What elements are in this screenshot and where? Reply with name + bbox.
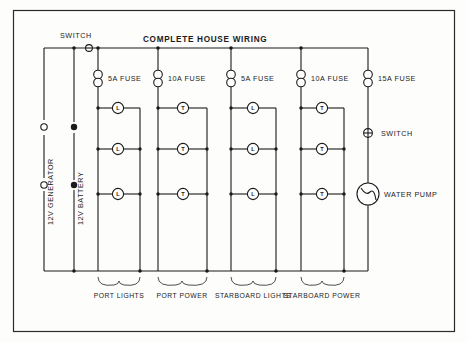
diagram-title: COMPLETE HOUSE WIRING: [143, 35, 267, 44]
circuit-1-name: PORT LIGHTS: [94, 292, 145, 299]
fuse-3-icon-lower[interactable]: [227, 78, 236, 87]
port-light-2-glyph: L: [116, 146, 120, 152]
port-light-3-glyph: L: [116, 191, 120, 197]
circuit-1-rung-3-node-left: [96, 192, 99, 195]
circuit-3-rung-3-node-right: [274, 192, 277, 195]
generator-label: 12V GENERATOR: [46, 158, 55, 225]
fuse-4-icon-lower[interactable]: [297, 78, 306, 87]
port-outlet-3-glyph: T: [181, 191, 185, 197]
brace-circuit-1: [98, 277, 140, 285]
main-switch-label: SWITCH: [60, 31, 92, 40]
circuit-4-rung-1-node: [299, 106, 302, 109]
circuit-3-bottom-junction: [274, 269, 278, 273]
circuit-4-name: STARBOARD POWER: [284, 292, 361, 299]
circuit-4-rung-2-node-right: [342, 147, 345, 150]
starboard-light-1-glyph: L: [251, 105, 255, 111]
circuit-3-rung-3-node-left: [229, 192, 232, 195]
port-outlet-1-glyph: T: [181, 105, 185, 111]
battery-bus-junction: [72, 46, 76, 50]
circuit-2-rung-2-node-right: [205, 147, 208, 150]
fuse-5-icon-upper[interactable]: [364, 70, 373, 79]
pump-switch-label: SWITCH: [381, 129, 413, 138]
starboard-outlet-2-glyph: T: [320, 146, 324, 152]
generator-terminal-positive: [41, 124, 47, 130]
circuit-2-rung-2-node-left: [156, 147, 159, 150]
fuse-4-icon-upper[interactable]: [297, 70, 306, 79]
wiring-diagram-canvas: COMPLETE HOUSE WIRING 12V GENERATOR 12V …: [0, 0, 468, 342]
fuse-1-icon-lower[interactable]: [94, 78, 103, 87]
fuse-3-label: 5A FUSE: [241, 74, 274, 83]
brace-circuit-3: [231, 277, 276, 285]
circuit-2-bottom-junction: [205, 269, 209, 273]
battery-label: 12V BATTERY: [76, 172, 85, 225]
circuit-3-rung-1-node: [229, 106, 232, 109]
fuse-4-label: 10A FUSE: [311, 74, 349, 83]
starboard-light-3-glyph: L: [251, 191, 255, 197]
fuse-5-label: 15A FUSE: [378, 74, 416, 83]
fuse-1-label: 5A FUSE: [108, 74, 141, 83]
circuit-4-rung-3-node-right: [342, 192, 345, 195]
port-outlet-2-glyph: T: [181, 146, 185, 152]
circuit-3-rung-2-node-right: [274, 147, 277, 150]
circuit-3-name: STARBOARD LIGHTS: [215, 292, 291, 299]
wiring-diagram-svg: COMPLETE HOUSE WIRING 12V GENERATOR 12V …: [0, 0, 468, 342]
battery-bottom-junction: [72, 269, 76, 273]
brace-circuit-4: [301, 277, 344, 285]
fuse-2-icon-lower[interactable]: [154, 78, 163, 87]
circuit-2-rung-3-node-left: [156, 192, 159, 195]
circuit-4-rung-2-node-left: [299, 147, 302, 150]
circuit-1-rung-2-node-right: [138, 147, 141, 150]
brace-circuit-2: [158, 277, 207, 285]
circuit-2-rung-3-node-right: [205, 192, 208, 195]
fuse-1-icon-upper[interactable]: [94, 70, 103, 79]
circuit-4-rung-3-node-left: [299, 192, 302, 195]
circuit-1-rung-2-node-left: [96, 147, 99, 150]
circuit-4-bottom-junction: [342, 269, 346, 273]
circuit-2-rung-1-node: [156, 106, 159, 109]
fuse-5-icon-lower[interactable]: [364, 78, 373, 87]
port-light-1-glyph: L: [116, 105, 120, 111]
water-pump-label: WATER PUMP: [384, 190, 437, 199]
battery-terminal-positive: [71, 124, 77, 130]
starboard-outlet-1-glyph: T: [320, 105, 324, 111]
fuse-3-icon-upper[interactable]: [227, 70, 236, 79]
circuit-1-rung-3-node-right: [138, 192, 141, 195]
fuse-2-label: 10A FUSE: [168, 74, 206, 83]
water-pump-icon[interactable]: [357, 183, 379, 205]
circuit-3-rung-2-node-left: [229, 147, 232, 150]
circuit-1-bottom-junction: [138, 269, 142, 273]
circuit-2-name: PORT POWER: [156, 292, 207, 299]
fuse-2-icon-upper[interactable]: [154, 70, 163, 79]
starboard-light-2-glyph: L: [251, 146, 255, 152]
starboard-outlet-3-glyph: T: [320, 191, 324, 197]
circuit-1-rung-1-node: [96, 106, 99, 109]
